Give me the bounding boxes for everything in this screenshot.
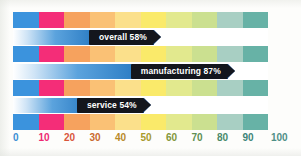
data-label-text: service 54%	[87, 101, 137, 110]
data-label-service: service 54%	[77, 98, 143, 113]
x-tick-10: 10	[39, 130, 50, 146]
x-tick-60: 60	[166, 130, 177, 146]
x-tick-50: 50	[141, 130, 152, 146]
x-axis: 0102030405060708090100	[13, 130, 268, 146]
data-label-manufacturing: manufacturing 87%	[131, 64, 227, 79]
x-tick-20: 20	[64, 130, 75, 146]
x-tick-80: 80	[217, 130, 228, 146]
x-tick-70: 70	[192, 130, 203, 146]
stacked-band-bar-chart: overall 58%manufacturing 87%service 54% …	[0, 0, 301, 156]
x-tick-90: 90	[243, 130, 254, 146]
x-tick-0: 0	[13, 130, 19, 146]
x-tick-40: 40	[115, 130, 126, 146]
data-label-overall: overall 58%	[89, 30, 153, 45]
data-label-text: overall 58%	[99, 33, 147, 42]
plot-area: overall 58%manufacturing 87%service 54%	[13, 12, 268, 130]
x-tick-100: 100	[271, 130, 288, 146]
x-tick-30: 30	[90, 130, 101, 146]
data-label-text: manufacturing 87%	[141, 67, 221, 76]
